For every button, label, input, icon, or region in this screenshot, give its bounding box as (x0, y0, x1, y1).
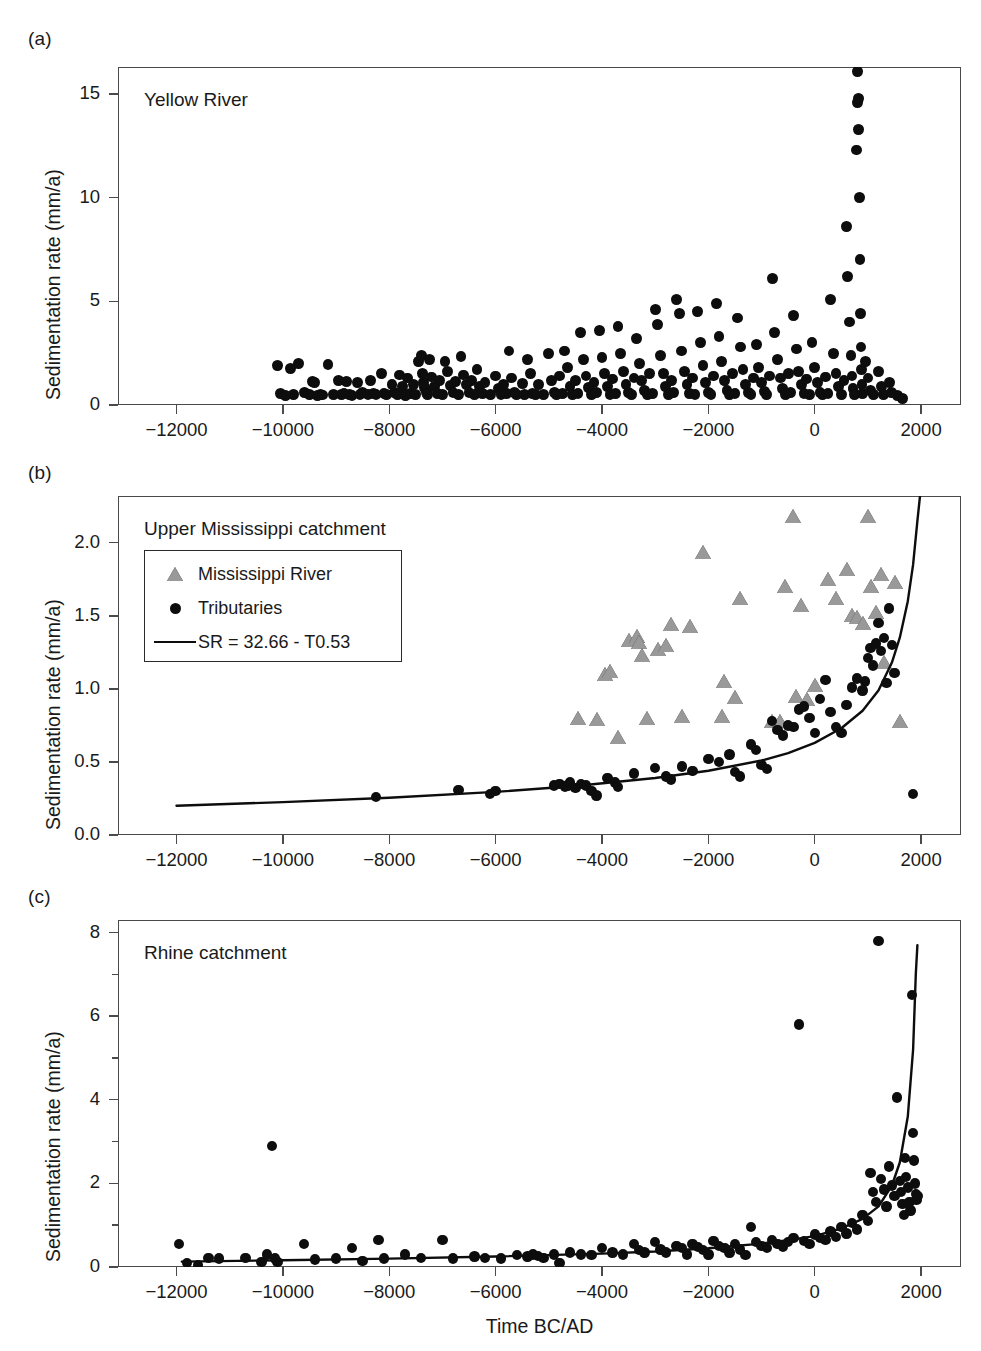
legend-item-triangle: Mississippi River (152, 560, 332, 588)
data-point (876, 1174, 886, 1184)
data-point (272, 1257, 282, 1267)
legend-label: Tributaries (198, 598, 282, 619)
data-point (554, 1258, 564, 1267)
data-point (907, 990, 917, 1000)
data-point (740, 1250, 750, 1260)
data-point (703, 1249, 713, 1259)
data-point (910, 1178, 920, 1188)
data-point (661, 1247, 671, 1257)
x-tick-label: 2000 (851, 1281, 981, 1303)
data-point (240, 1253, 250, 1263)
data-point (357, 1256, 367, 1266)
data-point (804, 1239, 814, 1249)
data-point (469, 1251, 479, 1261)
data-point (841, 1228, 851, 1238)
data-point (871, 1197, 881, 1207)
data-point (682, 1249, 692, 1259)
data-point (863, 1216, 873, 1226)
data-point (586, 1250, 596, 1260)
y-tick (109, 1015, 118, 1016)
legend-marker-circle (152, 603, 198, 614)
x-tick (920, 1267, 921, 1276)
x-axis-label: Time BC/AD (450, 1315, 630, 1338)
data-point (512, 1250, 522, 1260)
x-tick (176, 1267, 177, 1276)
x-tick (708, 1267, 709, 1276)
y-tick-label: 8 (32, 921, 100, 943)
y-tick (109, 932, 118, 933)
data-point (299, 1239, 309, 1249)
y-tick-label: 0 (32, 1255, 100, 1277)
data-point (746, 1222, 756, 1232)
data-point (310, 1254, 320, 1264)
legend-item-circle: Tributaries (152, 594, 282, 622)
data-point (597, 1243, 607, 1253)
data-point (437, 1235, 447, 1245)
data-point (331, 1253, 341, 1263)
data-point (416, 1253, 426, 1263)
data-point (565, 1247, 575, 1257)
data-point (214, 1253, 224, 1263)
data-point (905, 1205, 915, 1215)
data-point (868, 1187, 878, 1197)
data-point (788, 1233, 798, 1243)
data-point (538, 1253, 548, 1263)
line-icon (154, 641, 196, 644)
data-point (794, 1019, 804, 1029)
data-point (892, 1092, 902, 1102)
data-point (873, 936, 883, 946)
y-tick (109, 1266, 118, 1267)
legend-marker-triangle (152, 567, 198, 581)
data-point (379, 1253, 389, 1263)
x-tick (389, 1267, 390, 1276)
data-point (193, 1260, 203, 1267)
triangle-icon (167, 567, 183, 581)
legend-marker-line (152, 641, 198, 644)
y-tick-label: 2 (32, 1171, 100, 1193)
fit-curve (118, 920, 961, 1267)
data-point (347, 1243, 357, 1253)
data-point (639, 1247, 649, 1257)
y-tick (109, 1183, 118, 1184)
data-point (267, 1141, 277, 1151)
circle-icon (170, 603, 181, 614)
figure-root: (a)Yellow RiverSedimentation rate (mm/a)… (0, 0, 981, 1351)
data-point (448, 1253, 458, 1263)
data-point (373, 1235, 383, 1245)
data-point (908, 1128, 918, 1138)
y-tick-label: 4 (32, 1088, 100, 1110)
data-point (576, 1249, 586, 1259)
x-tick (601, 1267, 602, 1276)
data-point (912, 1191, 922, 1201)
data-point (618, 1249, 628, 1259)
legend-label: SR = 32.66 - T0.53 (198, 632, 350, 653)
data-point (881, 1201, 891, 1211)
y-axis-label: Sedimentation rate (mm/a) (42, 1031, 65, 1262)
data-point (607, 1247, 617, 1257)
data-point (496, 1253, 506, 1263)
x-tick (814, 1267, 815, 1276)
x-tick (495, 1267, 496, 1276)
data-point (852, 1224, 862, 1234)
data-point (865, 1168, 875, 1178)
panel-c: (c)Rhine catchmentSedimentation rate (mm… (0, 0, 981, 1351)
panel-tag: (c) (28, 886, 51, 908)
data-point (831, 1232, 841, 1242)
y-tick-label: 6 (32, 1004, 100, 1026)
data-point (909, 1155, 919, 1165)
plot-area (118, 920, 961, 1267)
legend-label: Mississippi River (198, 564, 332, 585)
y-tick (109, 1099, 118, 1100)
data-point (203, 1253, 213, 1263)
data-point (400, 1249, 410, 1259)
data-point (182, 1258, 192, 1267)
data-point (174, 1239, 184, 1249)
data-point (480, 1253, 490, 1263)
legend-item-line: SR = 32.66 - T0.53 (152, 628, 350, 656)
x-tick (282, 1267, 283, 1276)
data-point (884, 1161, 894, 1171)
